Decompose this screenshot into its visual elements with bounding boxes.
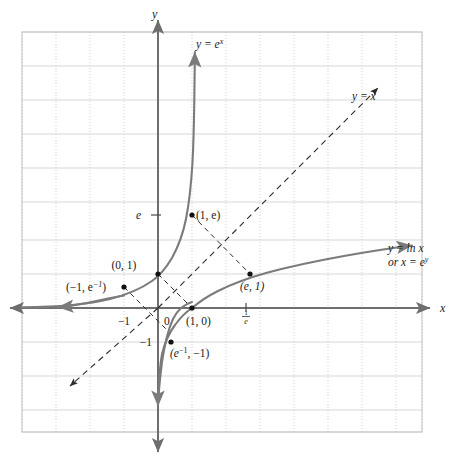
tick-label-y-neg1: −1 [140,336,152,348]
label-curve-logarithm-alt: or x = ey [388,255,429,268]
label-curve-exponential: y = ex [195,37,224,51]
point-label-e-1: (e, 1) [240,280,264,293]
point-0-1 [155,271,160,276]
tick-label-origin: 0 [164,315,170,327]
y-axis-label: y [151,7,158,21]
point-neg1-e-inverse [121,284,126,289]
label-curve-identity: y = x [351,90,377,103]
curve-exponential-group [22,52,195,406]
point-e-1 [247,271,252,276]
function-graph-svg: y x y = ex y = x y = ln x or x = ey e [0,0,460,462]
point-label-0-1: (0, 1) [112,259,137,272]
svg-text:1: 1 [244,309,247,316]
point-label-e-inverse-neg1: (e−1, −1) [170,346,209,360]
identity-line-group [70,88,378,386]
point-1-0 [189,305,194,310]
curve-logarithm-horizontal-tail [58,296,124,308]
point-e-inverse-neg1 [168,339,173,344]
axes-layer [10,20,430,452]
point-label-neg1-e-inverse: (−1, e−1) [66,280,106,294]
point-label-1-0: (1, 0) [186,315,211,328]
tick-label-x-neg1: −1 [118,315,130,327]
figure-container: y x y = ex y = x y = ln x or x = ey e [0,0,460,462]
tick-label-x-inverse-e: 1 e [242,309,250,326]
curve-y-equals-ln-x [192,246,412,309]
point-label-1-e: (1, e) [196,209,220,222]
label-curve-logarithm: y = ln x [387,242,424,255]
identity-line-y-equals-x [158,88,378,308]
curve-y-equals-e-to-the-x [22,52,195,307]
tick-marks [151,215,246,312]
svg-text:e: e [244,317,248,326]
x-axis-label: x [439,301,446,315]
tick-label-y-e: e [136,209,141,221]
point-1-e [189,212,194,217]
